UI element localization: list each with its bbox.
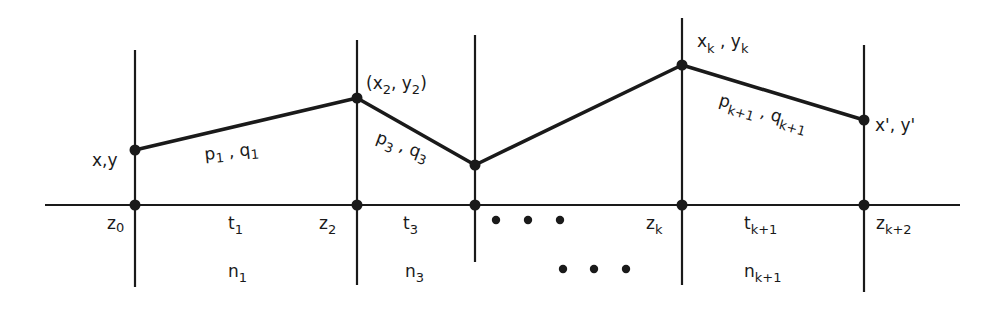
axis-dot-z2: [352, 200, 363, 211]
label-zk: zk: [646, 213, 663, 237]
vertex-pk: [677, 60, 688, 71]
label-segment-1: p1 , q1: [203, 138, 259, 167]
label-n3: n3: [405, 261, 424, 285]
vertex-end: [859, 115, 870, 126]
label-t3: t3: [403, 213, 418, 237]
label-segment-k1: pk+1 , qk+1: [716, 90, 811, 139]
label-end-point: x', y': [875, 115, 915, 135]
layered-path-diagram: x,y (x2, y2) xk , yk x', y' p1 , q1 p3 ,…: [0, 0, 1000, 310]
label-t1: t1: [228, 213, 243, 237]
label-segment-3: p3 , q3: [372, 127, 431, 168]
ellipsis-lower: [559, 265, 630, 273]
label-point-2: (x2, y2): [366, 73, 427, 97]
axis-dot-z3: [470, 200, 481, 211]
vertex-start: [130, 145, 141, 156]
label-start-point: x,y: [92, 150, 118, 170]
vertex-p2: [352, 93, 363, 104]
label-z2: z2: [319, 213, 336, 237]
label-zk2: zk+2: [876, 213, 912, 237]
label-nk1: nk+1: [744, 261, 781, 285]
label-z0: z0: [107, 213, 124, 235]
label-point-k: xk , yk: [697, 31, 749, 56]
ellipsis-upper: [492, 216, 564, 224]
label-tk1: tk+1: [744, 213, 777, 237]
axis-dot-z0: [130, 200, 141, 211]
axis-dot-zk: [677, 200, 688, 211]
vertex-p3: [470, 160, 481, 171]
axis-dot-zk2: [859, 200, 870, 211]
label-n1: n1: [228, 261, 247, 285]
